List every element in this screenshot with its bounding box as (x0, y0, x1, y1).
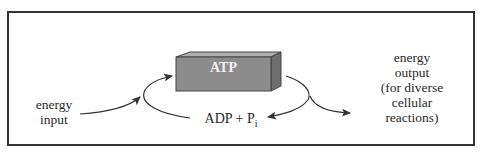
energy-input-label: energy input (28, 97, 80, 127)
output-line-4: reactions) (367, 110, 457, 125)
adp-label: ADP + Pi (196, 111, 266, 131)
energy-input-line1: energy (28, 97, 80, 112)
atp-label: ATP (176, 60, 271, 76)
adp-text: ADP + P (205, 111, 255, 126)
output-line-3: cellular (367, 95, 457, 110)
adp-subscript: i (255, 118, 258, 129)
energy-output-label: energy output (for diverse cellular reac… (367, 50, 457, 125)
energy-input-arrow (80, 97, 140, 114)
output-line-2: (for diverse (367, 80, 457, 95)
energy-output-arrow (310, 96, 350, 113)
energy-input-line2: input (28, 112, 80, 127)
output-line-1: output (367, 65, 457, 80)
output-line-0: energy (367, 50, 457, 65)
